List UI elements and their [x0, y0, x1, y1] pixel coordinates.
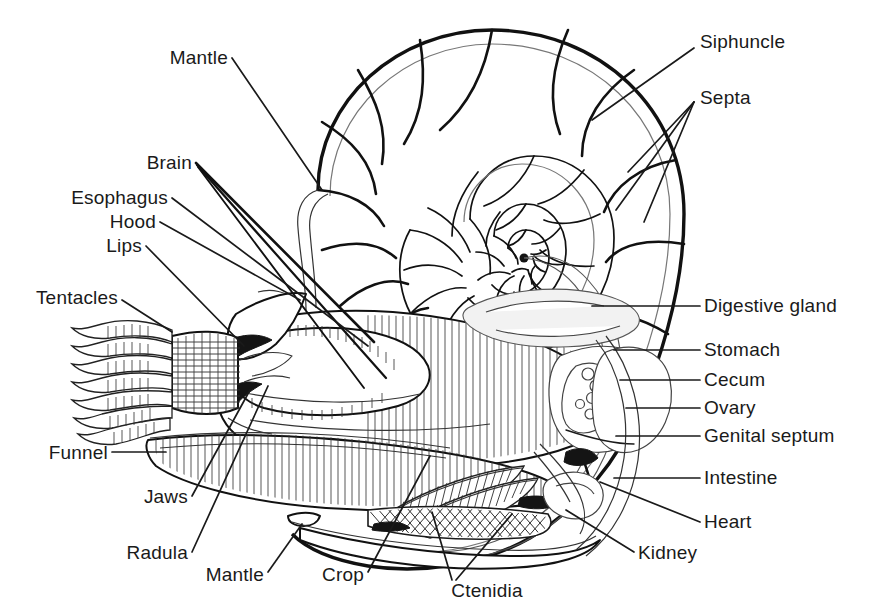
leader-heart	[600, 482, 700, 522]
label-esophagus: Esophagus	[71, 187, 168, 208]
leader-siphuncle	[592, 48, 694, 120]
label-heart: Heart	[704, 511, 752, 532]
label-hood: Hood	[110, 211, 156, 232]
kidney-organ	[543, 472, 603, 519]
label-brain: Brain	[147, 152, 192, 173]
label-crop: Crop	[322, 564, 364, 585]
label-funnel: Funnel	[49, 442, 108, 463]
label-jaws: Jaws	[144, 486, 188, 507]
label-mantle-top: Mantle	[170, 47, 228, 68]
label-kidney: Kidney	[638, 542, 698, 563]
label-mantle-bottom: Mantle	[206, 564, 264, 585]
label-siphuncle: Siphuncle	[700, 31, 785, 52]
label-ctenidia: Ctenidia	[451, 580, 523, 601]
label-genital-septum: Genital septum	[704, 425, 835, 446]
label-digestive-gland: Digestive gland	[704, 295, 837, 316]
leader-septa-a	[628, 102, 694, 172]
label-radula: Radula	[127, 542, 189, 563]
leader-mantle-bottom	[268, 524, 302, 572]
leader-mantle-top	[232, 58, 322, 190]
nautilus-anatomy-figure: Mantle Brain Esophagus Hood Lips Tentacl…	[0, 0, 871, 610]
tentacles	[72, 321, 172, 445]
label-ovary: Ovary	[704, 397, 756, 418]
leader-kidney	[566, 510, 634, 552]
label-lips: Lips	[106, 235, 142, 256]
label-septa: Septa	[700, 87, 751, 108]
leader-hood	[160, 222, 300, 300]
label-stomach: Stomach	[704, 339, 780, 360]
label-tentacles: Tentacles	[36, 287, 118, 308]
label-intestine: Intestine	[704, 467, 778, 488]
label-cecum: Cecum	[704, 369, 765, 390]
